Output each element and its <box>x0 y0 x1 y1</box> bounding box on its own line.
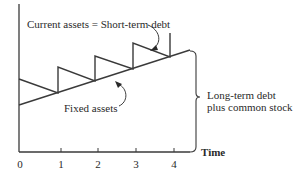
fixed-assets-arrow <box>119 85 126 106</box>
x-axis-title: Time <box>201 146 225 158</box>
current-assets-label: Current assets = Short-term debt <box>27 18 170 30</box>
fixed-assets-label: Fixed assets <box>64 102 117 114</box>
tick-label-4: 4 <box>168 158 180 170</box>
long-term-debt-label: Long-term debt <box>207 89 276 101</box>
tick-label-0: 0 <box>14 158 26 170</box>
arrowhead-icon <box>115 81 122 88</box>
common-stock-label: plus common stock <box>207 101 293 113</box>
brace <box>190 51 200 152</box>
fixed-assets-line <box>19 50 190 105</box>
tick-label-3: 3 <box>130 158 142 170</box>
tick-label-2: 2 <box>92 158 104 170</box>
tick-label-1: 1 <box>55 158 67 170</box>
